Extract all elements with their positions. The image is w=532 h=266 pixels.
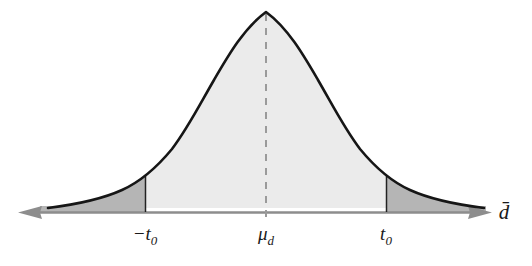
label-neg-t0-sub: 0: [151, 233, 158, 248]
label-mu-d-sub: d: [268, 233, 275, 248]
label-neg-t0-main: −t: [133, 223, 152, 244]
label-mu-d-main: μ: [257, 223, 268, 244]
label-pos-t0: t0: [380, 223, 392, 248]
label-pos-t0-sub: 0: [385, 233, 392, 248]
label-neg-t0: −t0: [133, 223, 158, 248]
center-acceptance-region: [48, 12, 484, 208]
bell-curve-figure: −t0 μd t0 d̄: [0, 0, 532, 266]
left-arrowhead-icon: [18, 206, 42, 219]
curve-fill-regions: [40, 12, 486, 213]
label-mu-d: μd: [257, 223, 275, 248]
axis-label-d-bar: d̄: [499, 200, 510, 224]
distribution-chart-svg: −t0 μd t0 d̄: [0, 0, 532, 266]
